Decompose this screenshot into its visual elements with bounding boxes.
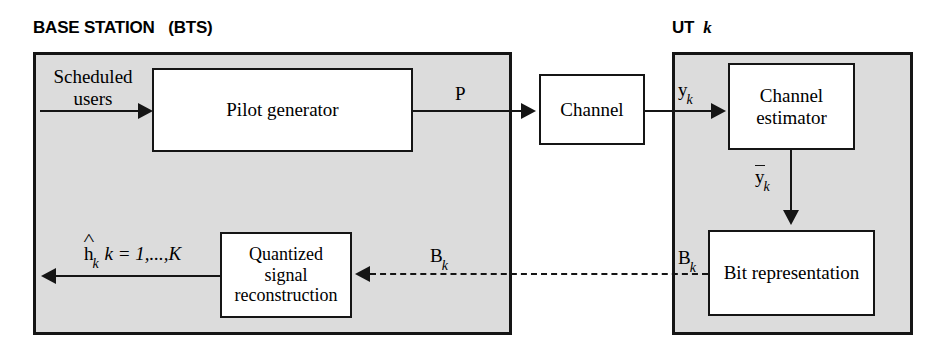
bts-section-title: BASE STATION (BTS) — [33, 18, 213, 38]
scheduled-users-label-line1: Scheduled — [38, 66, 148, 88]
feedback-dashed-connector — [370, 273, 708, 275]
pilot-matrix-label: P — [455, 84, 466, 105]
received-signal-subscript: k — [687, 92, 693, 107]
ut-section-title: UT k — [672, 18, 712, 38]
quantized-reconstruction-label-line3: reconstruction — [235, 285, 338, 306]
bts-feedback-bits-symbol: B — [430, 245, 443, 266]
quantized-signal-label: yk — [755, 165, 771, 191]
channel-estimate-subscript: k — [93, 256, 99, 271]
channel-estimate-range: k = 1,...,K — [100, 243, 181, 264]
ut-section-title-index: k — [703, 18, 711, 37]
scheduled-users-label: Scheduled users — [38, 66, 148, 110]
quantized-reconstruction-block[interactable]: Quantized signal reconstruction — [220, 232, 352, 318]
quantized-signal-subscript: k — [764, 179, 770, 194]
channel-estimator-label-line1: Channel — [756, 85, 827, 107]
feedback-arrowhead — [355, 266, 370, 282]
channel-to-estimator-arrowhead — [711, 103, 726, 119]
scheduled-users-connector — [40, 110, 140, 112]
pilot-generator-block[interactable]: Pilot generator — [152, 68, 413, 152]
received-signal-label: yk — [678, 80, 694, 104]
block-diagram-canvas: BASE STATION (BTS) UT k Scheduled users … — [0, 0, 947, 356]
channel-estimate-output-arrowhead — [41, 268, 56, 284]
channel-estimate-label: hk k = 1,...,K — [84, 244, 181, 268]
quantized-reconstruction-label-line2: signal — [235, 265, 338, 286]
estimator-to-bits-arrowhead — [783, 210, 799, 225]
pilot-to-channel-arrowhead — [521, 103, 536, 119]
bts-feedback-bits-subscript: k — [442, 258, 448, 273]
scheduled-users-arrowhead — [138, 103, 153, 119]
ut-section-title-prefix: UT — [672, 18, 703, 37]
channel-block[interactable]: Channel — [539, 74, 645, 145]
bit-representation-block[interactable]: Bit representation — [708, 230, 875, 316]
scheduled-users-label-line2: users — [38, 88, 148, 110]
ut-feedback-bits-label: Bk — [678, 248, 697, 272]
pilot-to-channel-connector — [413, 110, 523, 112]
channel-estimate-output-connector — [56, 275, 220, 277]
channel-to-estimator-connector — [645, 110, 713, 112]
channel-estimator-block[interactable]: Channel estimator — [728, 63, 855, 150]
channel-estimator-label-line2: estimator — [756, 107, 827, 129]
ut-feedback-bits-symbol: B — [678, 247, 691, 268]
bts-feedback-bits-label: Bk — [430, 246, 449, 270]
estimator-to-bits-connector — [790, 150, 792, 212]
quantized-reconstruction-label-line1: Quantized — [235, 244, 338, 265]
